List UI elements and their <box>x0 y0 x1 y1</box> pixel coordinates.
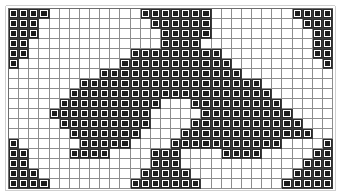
grid-cell-filled <box>100 109 110 119</box>
grid-cell-empty <box>141 159 151 169</box>
grid-cell-filled <box>19 49 29 59</box>
grid-cell-empty <box>19 69 29 79</box>
grid-cell-empty <box>303 139 313 149</box>
grid-cell-filled <box>90 89 100 99</box>
grid-cell-filled <box>141 59 151 69</box>
grid-cell-empty <box>50 39 60 49</box>
grid-cell-empty <box>212 29 222 39</box>
grid-cell-empty <box>29 109 39 119</box>
grid-cell-empty <box>9 69 19 79</box>
grid-cell-empty <box>293 39 303 49</box>
grid-cell-filled <box>191 139 201 149</box>
grid-cell-filled <box>131 59 141 69</box>
grid-cell-empty <box>282 59 292 69</box>
grid-cell-filled <box>201 109 211 119</box>
grid-cell-filled <box>9 139 19 149</box>
grid-cell-empty <box>313 79 323 89</box>
grid-cell-filled <box>252 99 262 109</box>
grid-cell-filled <box>313 39 323 49</box>
grid-cell-filled <box>232 89 242 99</box>
grid-cell-empty <box>29 159 39 169</box>
grid-cell-filled <box>282 109 292 119</box>
grid-cell-filled <box>161 69 171 79</box>
grid-cell-filled <box>252 89 262 99</box>
grid-cell-empty <box>100 169 110 179</box>
grid-cell-empty <box>100 179 110 189</box>
grid-cell-filled <box>70 149 80 159</box>
grid-cell-filled <box>201 49 211 59</box>
grid-cell-empty <box>282 9 292 19</box>
grid-cell-filled <box>19 29 29 39</box>
grid-cell-filled <box>262 129 272 139</box>
grid-cell-empty <box>110 49 120 59</box>
grid-cell-empty <box>131 39 141 49</box>
grid-cell-empty <box>29 59 39 69</box>
grid-cell-empty <box>120 19 130 29</box>
grid-cell-empty <box>293 19 303 29</box>
grid-cell-empty <box>60 69 70 79</box>
grid-cell-filled <box>141 69 151 79</box>
grid-cell-filled <box>80 129 90 139</box>
grid-cell-filled <box>131 89 141 99</box>
grid-cell-filled <box>29 19 39 29</box>
grid-cell-empty <box>181 149 191 159</box>
grid-cell-filled <box>201 99 211 109</box>
grid-cell-filled <box>161 39 171 49</box>
grid-cell-filled <box>171 39 181 49</box>
grid-cell-filled <box>323 39 333 49</box>
grid-cell-empty <box>50 59 60 69</box>
grid-cell-filled <box>222 149 232 159</box>
grid-cell-empty <box>212 19 222 29</box>
grid-cell-empty <box>39 119 49 129</box>
grid-cell-filled <box>100 89 110 99</box>
grid-cell-empty <box>50 169 60 179</box>
grid-cell-filled <box>120 69 130 79</box>
grid-cell-empty <box>303 79 313 89</box>
grid-cell-empty <box>272 29 282 39</box>
grid-cell-empty <box>39 89 49 99</box>
grid-cell-empty <box>303 29 313 39</box>
grid-cell-empty <box>110 169 120 179</box>
grid-cell-filled <box>212 119 222 129</box>
grid-cell-filled <box>171 149 181 159</box>
grid-cell-empty <box>242 159 252 169</box>
grid-cell-filled <box>201 19 211 29</box>
grid-cell-filled <box>90 109 100 119</box>
grid-cell-empty <box>110 29 120 39</box>
grid-cell-empty <box>262 59 272 69</box>
grid-cell-empty <box>19 99 29 109</box>
grid-cell-filled <box>313 19 323 29</box>
grid-cell-filled <box>232 109 242 119</box>
grid-cell-filled <box>191 99 201 109</box>
grid-cell-empty <box>100 9 110 19</box>
grid-cell-filled <box>242 79 252 89</box>
grid-cell-empty <box>151 119 161 129</box>
grid-cell-filled <box>181 69 191 79</box>
grid-cell-empty <box>272 149 282 159</box>
grid-cell-empty <box>282 69 292 79</box>
grid-cell-filled <box>323 139 333 149</box>
grid-cell-empty <box>19 129 29 139</box>
grid-cell-filled <box>222 99 232 109</box>
grid-cell-empty <box>50 19 60 29</box>
grid-cell-empty <box>100 19 110 29</box>
grid-cell-empty <box>181 119 191 129</box>
grid-cell-empty <box>60 89 70 99</box>
grid-cell-empty <box>29 39 39 49</box>
grid-cell-filled <box>242 139 252 149</box>
grid-cell-filled <box>181 89 191 99</box>
chart-margin-rule-top <box>6 5 335 6</box>
grid-cell-filled <box>29 29 39 39</box>
grid-cell-filled <box>181 139 191 149</box>
grid-cell-empty <box>50 89 60 99</box>
grid-cell-empty <box>80 159 90 169</box>
grid-cell-filled <box>50 109 60 119</box>
grid-cell-empty <box>50 99 60 109</box>
grid-cell-filled <box>191 19 201 29</box>
grid-cell-empty <box>90 29 100 39</box>
grid-cell-empty <box>70 39 80 49</box>
grid-cell-filled <box>293 119 303 129</box>
grid-cell-empty <box>60 9 70 19</box>
grid-cell-filled <box>110 139 120 149</box>
grid-cell-filled <box>151 49 161 59</box>
